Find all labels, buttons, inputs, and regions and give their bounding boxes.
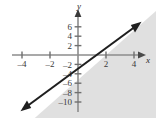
x-tick-label: 2 bbox=[104, 59, 109, 69]
x-tick-label: –4 bbox=[17, 59, 28, 69]
x-tick-label: –2 bbox=[45, 59, 55, 69]
y-tick-label: 2 bbox=[68, 41, 73, 51]
x-axis-label: x bbox=[145, 55, 150, 65]
coordinate-plane-svg: –4 –2 2 4 6 4 2 –2 –4 –6 –8 –10 x y bbox=[0, 0, 156, 118]
y-tick-label: –10 bbox=[58, 97, 73, 107]
x-tick-label: 4 bbox=[132, 59, 137, 69]
y-axis-tick-labels: 6 4 2 –2 –4 –6 –8 –10 bbox=[58, 22, 73, 107]
y-axis-label: y bbox=[76, 1, 81, 11]
graph-figure: –4 –2 2 4 6 4 2 –2 –4 –6 –8 –10 x y bbox=[0, 0, 156, 118]
line-arrow-lower-left bbox=[21, 101, 32, 112]
